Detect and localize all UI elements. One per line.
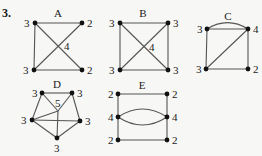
graph-e: 224422E: [108, 79, 178, 146]
edge: [32, 120, 80, 121]
vertex: [116, 92, 121, 97]
vertex: [116, 138, 121, 143]
vertex: [204, 67, 209, 72]
degree-label: 2: [172, 88, 178, 100]
vertex: [166, 68, 171, 73]
center-label: 4: [149, 41, 155, 53]
degree-label: 3: [54, 142, 60, 154]
degree-label: 3: [109, 64, 115, 76]
edge: [34, 23, 35, 70]
graph-name-label: E: [139, 79, 146, 91]
vertex: [118, 68, 123, 73]
degree-label: 2: [108, 88, 114, 100]
vertex: [205, 27, 210, 32]
graph-name-label: D: [53, 78, 61, 90]
degree-label: 3: [85, 115, 91, 127]
vertex: [30, 118, 35, 123]
degree-label: 3: [173, 17, 179, 29]
degree-label: 3: [32, 87, 38, 99]
vertex: [80, 68, 85, 73]
degree-label: 2: [253, 63, 259, 75]
graph-c: 3432C: [196, 10, 259, 75]
vertex: [116, 115, 121, 120]
vertex: [80, 21, 85, 26]
degree-label: 4: [253, 23, 259, 35]
arc-edge: [118, 117, 167, 125]
vertex: [33, 21, 38, 26]
hub-edge: [32, 111, 58, 120]
degree-label: 2: [172, 134, 178, 146]
graph-a: 3232A4: [23, 7, 93, 76]
hub-edge: [57, 111, 58, 138]
vertex: [166, 21, 171, 26]
degree-label: 3: [196, 63, 202, 75]
degree-label: 4: [108, 111, 114, 123]
center-label: 5: [55, 97, 61, 109]
arc-edge: [207, 23, 248, 29]
vertex: [246, 27, 251, 32]
vertex: [40, 91, 45, 96]
problem-number: 3.: [2, 6, 11, 20]
degree-label: 3: [173, 64, 179, 76]
graph-name-label: A: [54, 7, 62, 19]
graph-name-label: B: [139, 7, 146, 19]
degree-label: 3: [77, 87, 83, 99]
edge: [206, 29, 207, 69]
graph-d: 33333D5: [21, 78, 91, 154]
degree-label: 2: [87, 17, 93, 29]
degree-label: 3: [24, 17, 30, 29]
vertex: [246, 67, 251, 72]
edge: [57, 121, 80, 138]
vertex: [165, 115, 170, 120]
degree-label: 3: [109, 17, 115, 29]
graph-name-label: C: [224, 10, 231, 22]
degree-label: 3: [197, 23, 203, 35]
degree-label: 3: [23, 64, 29, 76]
vertex: [32, 68, 37, 73]
degree-label: 3: [21, 114, 27, 126]
graphs-group: 3232A43333B43432C33333D5224422E: [21, 7, 259, 154]
center-label: 4: [64, 40, 70, 52]
graph-b: 3333B4: [109, 7, 179, 76]
degree-label: 4: [172, 111, 178, 123]
vertex: [118, 21, 123, 26]
vertex: [55, 136, 60, 141]
edge: [206, 29, 248, 69]
degree-label: 2: [108, 134, 114, 146]
degree-label: 2: [87, 64, 93, 76]
vertex: [165, 92, 170, 97]
vertex: [70, 91, 75, 96]
edge: [32, 120, 57, 138]
vertex: [165, 138, 170, 143]
arc-edge: [118, 109, 167, 117]
vertex: [78, 119, 83, 124]
graph-diagram: 3. 3232A43333B43432C33333D5224422E: [0, 0, 262, 156]
